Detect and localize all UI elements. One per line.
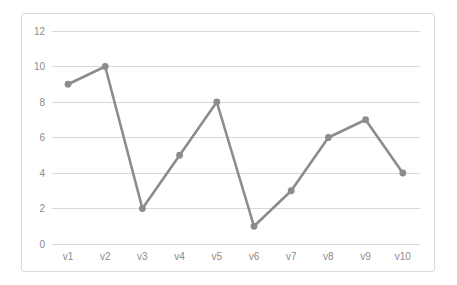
- gridlines: [52, 31, 420, 244]
- data-point-marker: [139, 205, 146, 212]
- x-axis-tick-label: v10: [395, 251, 412, 262]
- data-point-marker: [362, 116, 369, 123]
- x-axis-tick-label: v9: [360, 251, 371, 262]
- y-axis-tick-label: 10: [34, 61, 46, 72]
- data-point-marker: [288, 187, 295, 194]
- data-point-marker: [399, 170, 406, 177]
- y-axis-tick-label: 8: [39, 97, 45, 108]
- line-chart: 024681012 v1v2v3v4v5v6v7v8v9v10: [0, 0, 457, 285]
- data-point-marker: [213, 99, 220, 106]
- chart-plot-area: 024681012 v1v2v3v4v5v6v7v8v9v10: [0, 0, 457, 285]
- data-point-markers: [65, 63, 407, 230]
- x-axis-tick-labels: v1v2v3v4v5v6v7v8v9v10: [63, 251, 412, 262]
- data-point-marker: [325, 134, 332, 141]
- x-axis-tick-label: v4: [174, 251, 185, 262]
- x-axis-tick-label: v8: [323, 251, 334, 262]
- x-axis-tick-label: v6: [249, 251, 260, 262]
- x-axis-tick-label: v7: [286, 251, 297, 262]
- y-axis-tick-label: 4: [39, 168, 45, 179]
- y-axis-tick-label: 0: [39, 239, 45, 250]
- data-point-marker: [176, 152, 183, 159]
- x-axis-tick-label: v2: [100, 251, 111, 262]
- data-series-line: [68, 67, 403, 227]
- y-axis-tick-label: 6: [39, 132, 45, 143]
- x-axis-tick-label: v1: [63, 251, 74, 262]
- data-point-marker: [65, 81, 72, 88]
- data-point-marker: [102, 63, 109, 70]
- y-axis-tick-labels: 024681012: [34, 26, 46, 250]
- x-axis-tick-label: v5: [212, 251, 223, 262]
- data-point-marker: [251, 223, 258, 230]
- series-polyline: [68, 67, 403, 227]
- y-axis-tick-label: 2: [39, 203, 45, 214]
- x-axis-tick-label: v3: [137, 251, 148, 262]
- y-axis-tick-label: 12: [34, 26, 46, 37]
